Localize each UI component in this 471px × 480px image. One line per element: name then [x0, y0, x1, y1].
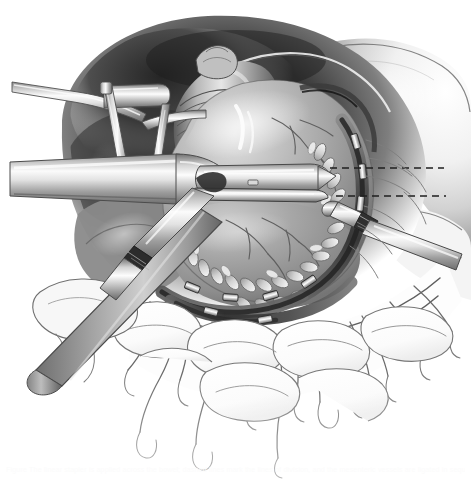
illustration-canvas	[0, 0, 471, 480]
surgical-illustration-figure: Figure The linear stapler is applied acr…	[0, 0, 471, 480]
figure-caption: Figure The linear stapler is applied acr…	[6, 465, 465, 474]
